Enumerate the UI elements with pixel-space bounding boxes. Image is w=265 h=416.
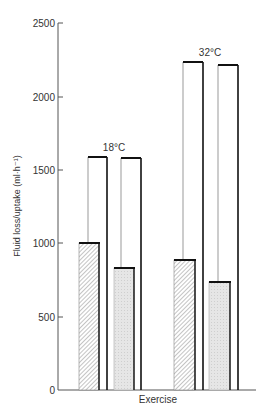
bar-hatched-18c xyxy=(79,243,100,390)
y-tick-label: 2000 xyxy=(33,92,56,103)
group-label-32c: 32°C xyxy=(199,47,221,58)
y-axis xyxy=(58,23,63,390)
bar-group-32c: 32°C xyxy=(174,47,238,390)
y-tick-label: 1500 xyxy=(33,165,56,176)
bar-chart: 2500 2000 1500 1000 500 0 Fluid loss/upt… xyxy=(0,0,265,416)
x-axis-title: Exercise xyxy=(139,394,178,405)
bar-hatched-32c xyxy=(174,260,196,390)
y-tick-label: 1000 xyxy=(33,238,56,249)
y-tick-label: 2500 xyxy=(33,18,56,29)
group-label-18c: 18°C xyxy=(103,142,125,153)
bar-stippled-18c xyxy=(114,268,135,390)
bar-group-18c: 18°C xyxy=(79,142,141,390)
bar-stippled-32c xyxy=(209,282,231,390)
y-axis-title: Fluid loss/uptake (ml·h⁻¹) xyxy=(12,155,22,257)
y-tick-label: 500 xyxy=(38,312,55,323)
y-tick-label: 0 xyxy=(49,385,55,396)
